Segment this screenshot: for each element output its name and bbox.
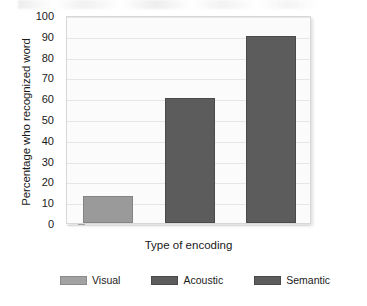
bar-acoustic bbox=[165, 98, 215, 223]
y-tick-label: 60 bbox=[22, 94, 54, 105]
legend-item-visual: Visual bbox=[60, 274, 120, 286]
y-tick-label: 90 bbox=[22, 31, 54, 42]
legend-item-semantic: Semantic bbox=[254, 274, 330, 286]
scan-artifact bbox=[18, 0, 318, 9]
y-tick-label: 20 bbox=[22, 177, 54, 188]
legend-label: Acoustic bbox=[183, 274, 223, 286]
y-tick-label: 80 bbox=[22, 52, 54, 63]
legend-swatch-icon bbox=[151, 276, 178, 285]
y-tick-label: 50 bbox=[22, 115, 54, 126]
y-tick-label: 70 bbox=[22, 73, 54, 84]
legend-label: Semantic bbox=[286, 274, 330, 286]
y-tick-label: 30 bbox=[22, 156, 54, 167]
y-tick-label: 100 bbox=[22, 11, 54, 22]
y-axis-tick-labels: 1009080706050403020100 bbox=[22, 16, 54, 224]
plot-area bbox=[66, 16, 311, 224]
y-tick-label: 40 bbox=[22, 135, 54, 146]
bar-semantic bbox=[246, 36, 296, 223]
y-tick-label: 0 bbox=[22, 219, 54, 230]
bar-chart-figure: Percentage who recognized word 100908070… bbox=[0, 0, 367, 306]
bar-series-group bbox=[67, 17, 310, 223]
chart-legend: VisualAcousticSemantic bbox=[60, 274, 330, 286]
legend-item-acoustic: Acoustic bbox=[151, 274, 223, 286]
legend-swatch-icon bbox=[60, 276, 87, 285]
gridline bbox=[67, 225, 310, 226]
bar-visual bbox=[83, 196, 133, 223]
y-tick-label: 10 bbox=[22, 198, 54, 209]
legend-swatch-icon bbox=[254, 276, 281, 285]
legend-label: Visual bbox=[92, 274, 120, 286]
x-axis-title: Type of encoding bbox=[66, 239, 311, 251]
